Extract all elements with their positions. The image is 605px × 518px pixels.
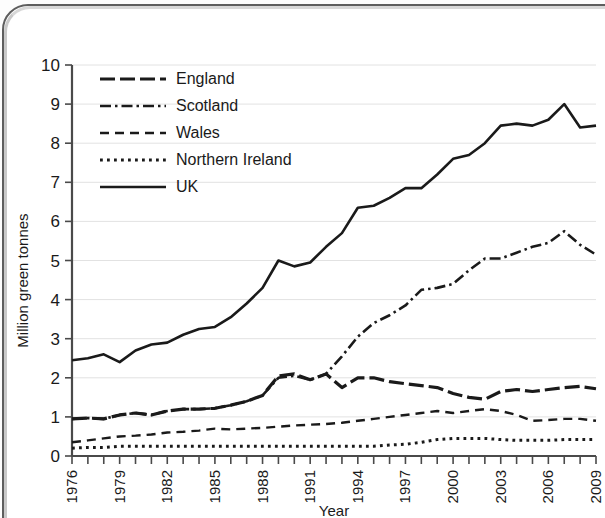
x-tick-label: 1994 <box>349 470 366 503</box>
series-line-northern-ireland <box>72 438 596 448</box>
y-tick-label: 2 <box>51 369 60 388</box>
chart-legend: EnglandScotlandWalesNorthern IrelandUK <box>100 70 292 195</box>
x-tick-label: 1991 <box>301 470 318 503</box>
y-tick-label: 9 <box>51 95 60 114</box>
legend-label-uk: UK <box>176 178 199 195</box>
y-tick-label: 5 <box>51 252 60 271</box>
y-tick-label: 3 <box>51 330 60 349</box>
x-axis-title: Year <box>319 502 349 518</box>
y-tick-label: 8 <box>51 134 60 153</box>
legend-label-england: England <box>176 70 235 87</box>
x-tick-label: 1982 <box>158 470 175 503</box>
data-series-group <box>72 104 596 448</box>
x-tick-label: 1997 <box>396 470 413 503</box>
x-tick-label: 1988 <box>254 470 271 503</box>
legend-label-scotland: Scotland <box>176 97 238 114</box>
y-tick-label: 7 <box>51 173 60 192</box>
y-axis-tick-labels: 012345678910 <box>41 56 60 466</box>
page-container: 012345678910 197619791982198519881991199… <box>0 0 605 518</box>
x-tick-label: 1976 <box>63 470 80 503</box>
legend-label-wales: Wales <box>176 124 220 141</box>
x-tick-label: 1979 <box>111 470 128 503</box>
series-line-england <box>72 374 596 419</box>
chart-svg: 012345678910 197619791982198519881991199… <box>0 0 605 518</box>
x-axis-tick-labels: 1976197919821985198819911994199720002003… <box>63 470 604 503</box>
x-tick-label: 2003 <box>492 470 509 503</box>
series-line-wales <box>72 409 596 442</box>
x-tick-label: 2009 <box>587 470 604 503</box>
line-chart: 012345678910 197619791982198519881991199… <box>0 0 605 518</box>
y-tick-label: 4 <box>51 291 60 310</box>
legend-label-northern-ireland: Northern Ireland <box>176 151 292 168</box>
x-tick-label: 2000 <box>444 470 461 503</box>
x-tick-label: 1985 <box>206 470 223 503</box>
x-tick-label: 2006 <box>539 470 556 503</box>
y-tick-label: 6 <box>51 212 60 231</box>
y-axis-title: Million green tonnes <box>14 213 31 347</box>
y-tick-label: 10 <box>41 56 60 75</box>
y-tick-label: 0 <box>51 447 60 466</box>
y-tick-label: 1 <box>51 408 60 427</box>
x-axis-ticks-group <box>72 456 596 464</box>
